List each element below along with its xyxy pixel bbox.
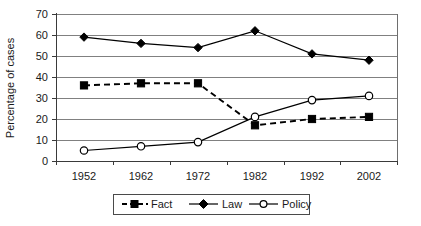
chart-legend: Fact Law Policy: [113, 194, 312, 214]
x-tick-label: 2002: [357, 170, 381, 182]
data-point-fact-2002: [365, 113, 372, 120]
y-tick-label: 40: [36, 71, 48, 83]
y-tick-label: 50: [36, 50, 48, 62]
data-point-fact-1972: [194, 80, 201, 87]
legend-marker-open-circle: [260, 201, 267, 208]
y-tick-label: 10: [36, 134, 48, 146]
data-point-fact-1962: [137, 80, 144, 87]
x-tick-label: 1952: [72, 170, 96, 182]
data-point-fact-1992: [308, 115, 315, 122]
data-point-policy-1992: [308, 96, 315, 103]
data-point-fact-1982: [251, 122, 258, 129]
y-axis-title: Percentage of cases: [4, 37, 16, 138]
x-tick-label: 1992: [300, 170, 324, 182]
y-tick-label: 60: [36, 29, 48, 41]
plot-background: [56, 14, 397, 161]
data-point-policy-1952: [80, 147, 87, 154]
x-tick-label: 1982: [243, 170, 267, 182]
data-point-policy-1962: [137, 143, 144, 150]
line-chart: 70 60 50 40 30 20 10 0 1952 1962 1972 19…: [0, 0, 421, 226]
x-tick-label: 1962: [129, 170, 153, 182]
data-point-policy-2002: [365, 92, 372, 99]
legend-label-fact: Fact: [151, 198, 172, 210]
y-tick-label: 0: [42, 155, 48, 167]
data-point-policy-1972: [194, 138, 201, 145]
y-tick-label: 20: [36, 113, 48, 125]
x-tick-labels: 1952 1962 1972 1982 1992 2002: [72, 170, 381, 182]
legend-marker-filled-square: [131, 201, 138, 208]
legend-label-policy: Policy: [282, 198, 312, 210]
legend-label-law: Law: [222, 198, 242, 210]
data-point-fact-1952: [80, 82, 87, 89]
x-tick-label: 1972: [186, 170, 210, 182]
y-tick-label: 70: [36, 8, 48, 20]
chart-page: 70 60 50 40 30 20 10 0 1952 1962 1972 19…: [0, 0, 421, 226]
y-tickmarks: [52, 14, 56, 161]
y-tick-label: 30: [36, 92, 48, 104]
x-tickmarks: [56, 161, 397, 165]
data-point-policy-1982: [251, 113, 258, 120]
y-tick-labels: 70 60 50 40 30 20 10 0: [36, 8, 48, 167]
